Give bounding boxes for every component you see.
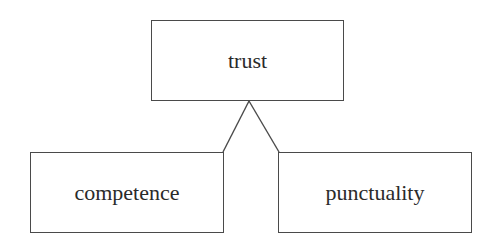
node-label: punctuality	[326, 180, 425, 206]
diagram-canvas: trust competence punctuality	[0, 0, 496, 250]
node-punctuality: punctuality	[278, 152, 472, 233]
node-trust: trust	[151, 20, 344, 101]
node-label: trust	[228, 48, 267, 74]
node-label: competence	[74, 180, 179, 206]
node-competence: competence	[30, 152, 224, 233]
edge-trust-competence	[223, 101, 249, 152]
edge-trust-punctuality	[249, 101, 279, 152]
